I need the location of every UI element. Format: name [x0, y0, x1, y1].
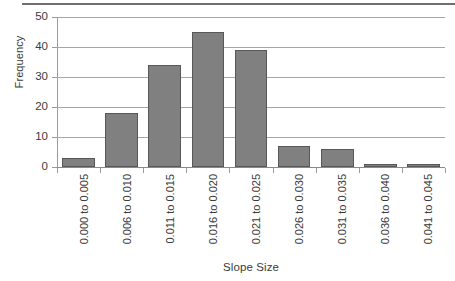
x-axis-tick-label: 0.021 to 0.025 — [251, 174, 262, 244]
scan-artifact-rule — [22, 3, 455, 5]
bar-slot — [100, 17, 143, 167]
gridline — [57, 167, 445, 168]
x-axis-tick-mark — [273, 168, 274, 173]
bar-slot — [143, 17, 186, 167]
bar-slot — [402, 17, 445, 167]
bar-slot — [186, 17, 229, 167]
y-axis-tick-label: 0 — [22, 161, 48, 173]
bar[interactable] — [321, 149, 354, 167]
x-axis-title: Slope Size — [57, 261, 445, 273]
scan-artifact-left-edge — [0, 0, 3, 281]
x-axis-label-slot: 0.036 to 0.040 — [359, 174, 402, 254]
x-axis-tick-mark — [143, 168, 144, 173]
x-axis-label-slot: 0.000 to 0.005 — [57, 174, 100, 254]
x-axis-tick-mark — [100, 168, 101, 173]
bar[interactable] — [235, 50, 268, 167]
bar-slot — [273, 17, 316, 167]
y-axis-tick-label: 30 — [22, 71, 48, 83]
x-axis-tick-mark — [445, 168, 446, 173]
x-axis-tick-mark — [186, 168, 187, 173]
bar[interactable] — [192, 32, 225, 167]
x-axis-tick-label: 0.016 to 0.020 — [208, 174, 219, 244]
x-axis-label-slot: 0.021 to 0.025 — [229, 174, 272, 254]
bar[interactable] — [105, 113, 138, 167]
x-axis-label-slot: 0.011 to 0.015 — [143, 174, 186, 254]
bar-slot — [57, 17, 100, 167]
x-axis-tick-mark — [316, 168, 317, 173]
x-axis-tick-label: 0.041 to 0.045 — [423, 174, 434, 244]
y-axis-tick-label: 10 — [22, 131, 48, 143]
x-axis-tick-mark — [57, 168, 58, 173]
x-axis-label-slot: 0.026 to 0.030 — [273, 174, 316, 254]
bar-slot — [316, 17, 359, 167]
x-axis-tick-mark — [359, 168, 360, 173]
x-axis-tick-label: 0.000 to 0.005 — [79, 174, 90, 244]
bar-slot — [359, 17, 402, 167]
y-axis-tick-label: 20 — [22, 101, 48, 113]
x-axis-label-slot: 0.016 to 0.020 — [186, 174, 229, 254]
x-axis-tick-label: 0.031 to 0.035 — [337, 174, 348, 244]
x-axis-tick-label: 0.006 to 0.010 — [122, 174, 133, 244]
histogram-figure: Frequency 01020304050 0.000 to 0.0050.00… — [0, 0, 455, 281]
bar-series — [57, 17, 445, 167]
x-axis-label-slot: 0.041 to 0.045 — [402, 174, 445, 254]
bar-slot — [229, 17, 272, 167]
x-axis-tick-label: 0.011 to 0.015 — [165, 174, 176, 244]
x-axis-tick-labels: 0.000 to 0.0050.006 to 0.0100.011 to 0.0… — [57, 174, 445, 254]
x-axis-tick-label: 0.026 to 0.030 — [294, 174, 305, 244]
y-axis-tick-label: 40 — [22, 41, 48, 53]
bar[interactable] — [62, 158, 95, 167]
x-axis-label-slot: 0.031 to 0.035 — [316, 174, 359, 254]
bar[interactable] — [278, 146, 311, 167]
x-axis-tick-mark — [229, 168, 230, 173]
bar[interactable] — [148, 65, 181, 167]
plot-area — [57, 17, 445, 167]
x-axis-label-slot: 0.006 to 0.010 — [100, 174, 143, 254]
x-axis-tick-label: 0.036 to 0.040 — [380, 174, 391, 244]
bar[interactable] — [407, 164, 440, 167]
x-axis-tick-mark — [402, 168, 403, 173]
bar[interactable] — [364, 164, 397, 167]
y-axis-tick-label: 50 — [22, 11, 48, 23]
